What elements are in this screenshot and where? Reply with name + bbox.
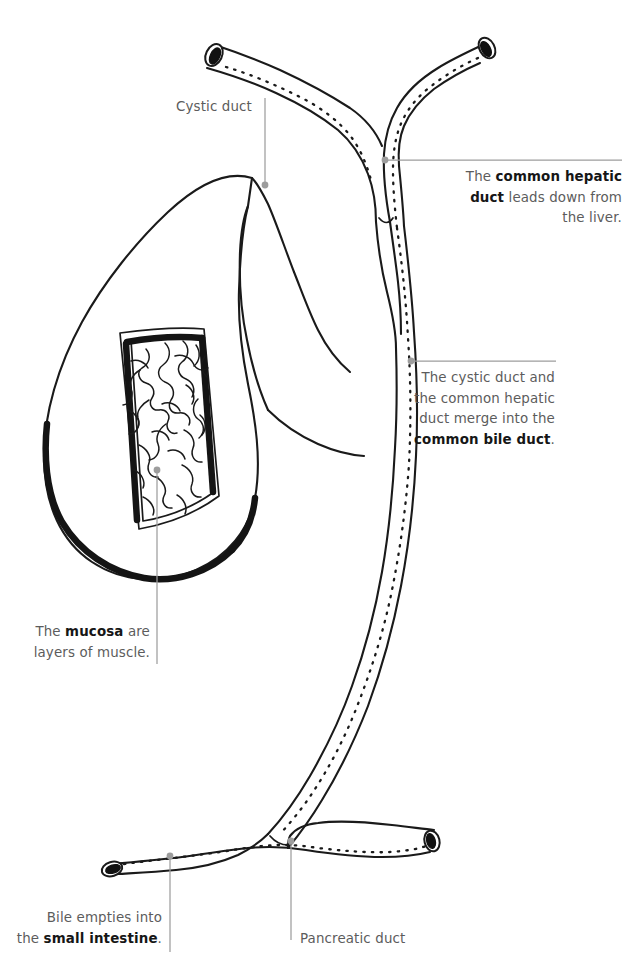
- annotation-text-line: the common hepatic: [414, 391, 555, 406]
- annotation-bold-term: small intestine: [44, 931, 158, 946]
- annotation-text-line: .: [551, 432, 555, 447]
- cystic-duct: [202, 41, 382, 222]
- annotation-cystic-duct-text: Cystic duct: [176, 99, 252, 114]
- annotation-text-line: layers of muscle.: [34, 645, 150, 660]
- annotation-text-line: duct merge into the: [419, 411, 555, 426]
- annotation-bold-term: common hepatic: [496, 169, 622, 184]
- annotation-bold-term: duct: [470, 190, 504, 205]
- anatomy-figure: .ink { fill:none; stroke:#1a1a1a; stroke…: [0, 0, 642, 976]
- annotation-cystic-duct: Cystic duct: [120, 97, 252, 118]
- annotation-pancreatic-duct-text: Pancreatic duct: [300, 931, 405, 946]
- annotation-text-line: Bile empties into: [47, 910, 162, 925]
- mucosa-cutaway: [120, 328, 219, 529]
- common-bile-duct: [268, 218, 417, 848]
- annotation-bold-term: common bile duct: [414, 432, 551, 447]
- annotation-text-line: leads down from: [504, 190, 622, 205]
- annotation-common-bile-duct: The cystic duct and the common hepatic d…: [410, 368, 555, 450]
- annotation-bold-term: mucosa: [65, 624, 123, 639]
- annotation-mucosa: The mucosa are layers of muscle.: [12, 622, 150, 663]
- annotation-text-line: the: [17, 931, 44, 946]
- annotation-common-hepatic-duct: The common hepatic duct leads down from …: [432, 167, 622, 229]
- leader-dot-cystic-duct: [262, 182, 269, 189]
- annotation-text-line: The: [466, 169, 496, 184]
- annotation-text-line: The cystic duct and: [421, 370, 555, 385]
- annotation-small-intestine: Bile empties into the small intestine.: [12, 908, 162, 949]
- annotation-text-line: are: [124, 624, 150, 639]
- annotation-text-line: .: [158, 931, 162, 946]
- annotation-pancreatic-duct: Pancreatic duct: [300, 929, 450, 950]
- annotation-text-line: the liver.: [562, 210, 622, 225]
- anatomy-illustration: .ink { fill:none; stroke:#1a1a1a; stroke…: [0, 0, 642, 976]
- annotation-text-line: The: [35, 624, 65, 639]
